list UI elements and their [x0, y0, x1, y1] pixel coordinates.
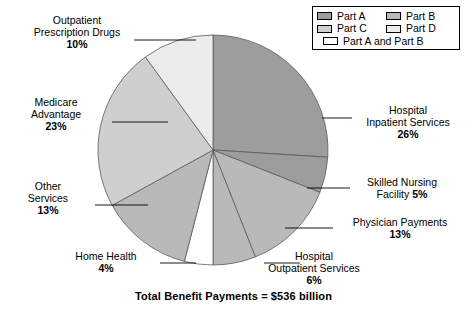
- legend-label: Part D: [406, 23, 436, 34]
- legend-row: Part APart B: [317, 10, 455, 23]
- pie-slices: [98, 35, 328, 265]
- legend-label: Part C: [337, 23, 367, 34]
- legend-swatch-icon: [317, 25, 332, 33]
- label-hospital-outpatient-services: Hospital Outpatient Services 6%: [252, 250, 376, 286]
- legend-item-part-a-and-part-b[interactable]: Part A and Part B: [317, 36, 455, 47]
- legend-swatch-icon: [323, 37, 338, 45]
- legend-swatch-icon: [386, 12, 401, 20]
- label-medicare-advantage: Medicare Advantage 23%: [6, 96, 106, 132]
- legend-item-part-a[interactable]: Part A: [317, 11, 386, 22]
- label-hospital-inpatient-services: Hospital Inpatient Services 26%: [350, 104, 466, 140]
- legend-label: Part A: [337, 11, 366, 22]
- label-outpatient-prescription-drugs: Outpatient Prescription Drugs 10%: [16, 14, 138, 50]
- chart-canvas: Outpatient Prescription Drugs 10% Medica…: [0, 0, 467, 313]
- legend-item-part-b[interactable]: Part B: [386, 11, 455, 22]
- legend-label: Part A and Part B: [343, 36, 424, 47]
- chart-caption: Total Benefit Payments = $536 billion: [0, 290, 467, 302]
- label-skilled-nursing-facility-line2: Facility 5%: [340, 188, 464, 200]
- legend-label: Part B: [406, 11, 435, 22]
- label-other-services: Other Services 13%: [6, 180, 90, 216]
- legend-item-part-c[interactable]: Part C: [317, 23, 386, 34]
- label-physician-payments: Physician Payments 13%: [336, 216, 464, 240]
- label-skilled-nursing-facility: Skilled Nursing Facility 5%: [340, 176, 464, 200]
- legend-swatch-icon: [386, 25, 401, 33]
- label-home-health: Home Health 4%: [56, 250, 156, 274]
- chart-legend: Part APart BPart CPart DPart A and Part …: [312, 6, 460, 50]
- legend-item-part-d[interactable]: Part D: [386, 23, 455, 34]
- legend-row: Part A and Part B: [317, 35, 455, 48]
- legend-swatch-icon: [317, 12, 332, 20]
- pie-slice-hospital-inpatient-services[interactable]: [213, 35, 328, 157]
- legend-row: Part CPart D: [317, 23, 455, 36]
